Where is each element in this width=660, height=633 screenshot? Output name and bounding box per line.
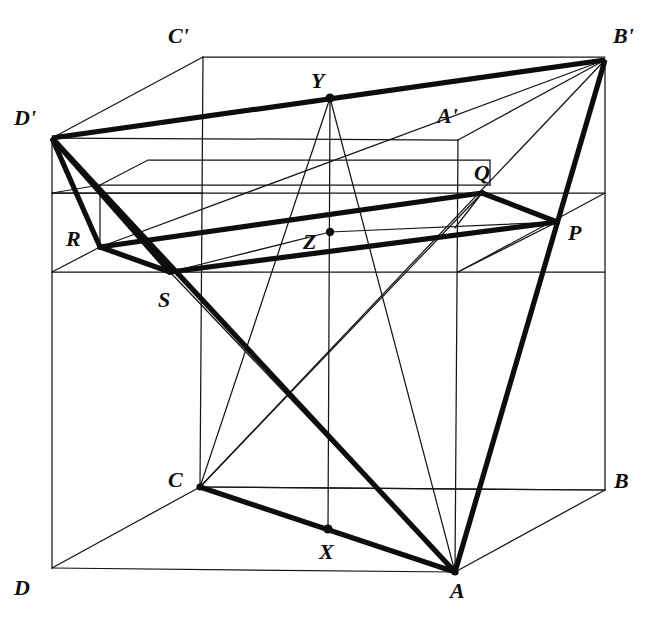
dot-Q — [479, 190, 485, 196]
label-Z: Z — [303, 231, 316, 253]
dot-Y — [325, 93, 334, 102]
segment-Y-C — [200, 98, 330, 487]
label-X: X — [319, 541, 334, 563]
dot-R — [97, 244, 103, 250]
plane-receding-back-right — [203, 160, 490, 185]
label-D: D — [14, 577, 30, 599]
label-C-prime: C' — [168, 25, 189, 47]
dot-A — [451, 568, 458, 575]
label-Q: Q — [474, 162, 490, 184]
dot-C — [196, 483, 203, 490]
segment-R-B-prime — [100, 60, 605, 247]
dot-X — [323, 524, 332, 533]
segment-C-X-to-B — [200, 487, 605, 490]
label-Y: Y — [311, 70, 324, 92]
label-D-prime: D' — [14, 107, 36, 129]
dot-P — [554, 219, 560, 225]
edge-A-A-prime — [455, 140, 458, 572]
label-B: B — [614, 470, 629, 492]
thick-B-prime-A — [455, 60, 605, 572]
figure-root: C' B' Y D' A' Q P R Z S C B X D A — [0, 0, 660, 633]
edge-D-C — [52, 487, 200, 568]
label-P: P — [568, 222, 581, 244]
edge-D-A — [52, 568, 455, 572]
label-S: S — [158, 289, 170, 311]
dot-Z — [326, 228, 334, 236]
label-A: A — [450, 580, 465, 602]
label-B-prime: B' — [613, 25, 634, 47]
edge-D-prime-A-prime — [52, 138, 458, 140]
thick-Q-P — [482, 193, 557, 222]
label-A-prime: A' — [437, 105, 458, 127]
dot-S — [167, 269, 173, 275]
label-R: R — [66, 228, 81, 250]
plane-receding-back — [100, 160, 203, 185]
label-C: C — [168, 469, 183, 491]
